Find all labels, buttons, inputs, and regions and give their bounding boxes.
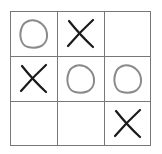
x-mark-icon bbox=[63, 16, 99, 52]
cell-0-1[interactable] bbox=[58, 12, 105, 57]
o-mark-icon bbox=[16, 16, 52, 52]
cell-1-2[interactable] bbox=[105, 57, 150, 102]
x-mark-icon bbox=[110, 106, 146, 142]
x-mark-icon bbox=[16, 61, 52, 97]
cell-1-1[interactable] bbox=[58, 57, 105, 102]
cell-0-0[interactable] bbox=[11, 12, 58, 57]
o-mark-icon bbox=[110, 61, 146, 97]
tic-tac-toe-board bbox=[10, 11, 151, 146]
cell-2-1[interactable] bbox=[58, 102, 105, 145]
o-mark-icon bbox=[63, 61, 99, 97]
cell-2-0[interactable] bbox=[11, 102, 58, 145]
cell-0-2[interactable] bbox=[105, 12, 150, 57]
cell-2-2[interactable] bbox=[105, 102, 150, 145]
cell-1-0[interactable] bbox=[11, 57, 58, 102]
